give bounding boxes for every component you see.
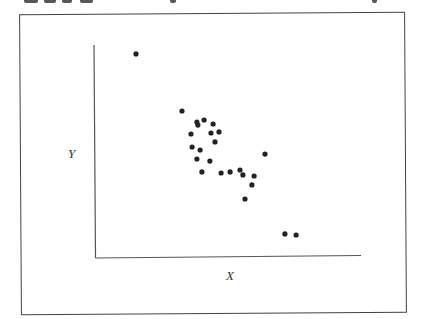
y-axis-line [94,45,96,258]
data-point [195,123,200,128]
data-point [208,130,213,135]
data-point [202,117,207,122]
data-point [212,139,217,144]
data-point [282,231,287,236]
data-point [188,131,193,136]
data-point [199,169,204,174]
data-point [249,182,254,187]
data-point [240,172,245,177]
data-point [198,147,203,152]
axes [94,45,361,258]
data-point [237,167,242,172]
data-point [190,144,195,149]
data-point [211,121,216,126]
data-point [179,108,184,113]
data-point [228,169,233,174]
data-point [252,173,257,178]
data-point [194,156,199,161]
scatter-plot [0,0,424,319]
data-point [216,129,221,134]
data-point [207,159,212,164]
data-points [133,51,298,237]
data-point [219,170,224,175]
data-point [294,232,299,237]
y-axis-label: Y [68,146,75,162]
data-point [262,152,267,157]
data-point [133,51,138,56]
x-axis-line [96,256,362,259]
data-point [242,196,247,201]
x-axis-label: X [226,268,234,284]
